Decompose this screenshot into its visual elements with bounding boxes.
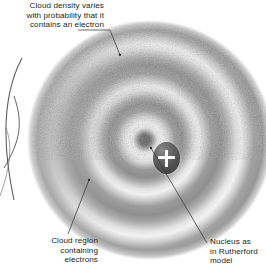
plus-icon-vertical-bar	[165, 150, 168, 167]
callout-cloud-density: Cloud density varies with probability th…	[0, 1, 104, 30]
positive-nucleus	[153, 142, 180, 174]
electron-cloud-diagram: Cloud density varies with probability th…	[0, 0, 266, 269]
electron-probability-cloud	[27, 20, 266, 260]
callout-cloud-region: Cloud region containing electrons	[6, 236, 98, 265]
cloud-grain-light	[27, 20, 266, 160]
callout-nucleus: Nucleus as in Rutherford model	[210, 237, 266, 266]
cloud-clip	[27, 20, 266, 260]
